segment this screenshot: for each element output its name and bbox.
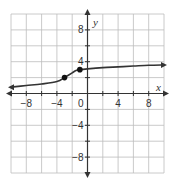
y-axis-arrow-down-icon <box>85 172 91 178</box>
data-point <box>62 75 68 81</box>
coordinate-plane: −8−404884−4−8 x y <box>0 0 173 185</box>
x-tick-label: 0 <box>78 98 84 109</box>
y-tick-label: 8 <box>78 24 84 35</box>
x-tick-label: 8 <box>146 98 152 109</box>
x-axis-arrow-left-icon <box>6 91 12 97</box>
x-tick-label: −4 <box>51 98 63 109</box>
y-tick-label: −4 <box>72 120 84 131</box>
y-tick-label: −8 <box>72 152 84 163</box>
x-axis-label: x <box>155 81 161 93</box>
y-axis-arrow-up-icon <box>85 9 91 15</box>
y-tick-label: 4 <box>78 56 84 67</box>
x-tick-label: 4 <box>115 98 121 109</box>
x-axis-arrow-right-icon <box>163 91 169 97</box>
y-axis-label: y <box>92 16 98 28</box>
data-point <box>77 67 83 73</box>
axes <box>6 9 169 178</box>
x-tick-label: −8 <box>21 98 33 109</box>
